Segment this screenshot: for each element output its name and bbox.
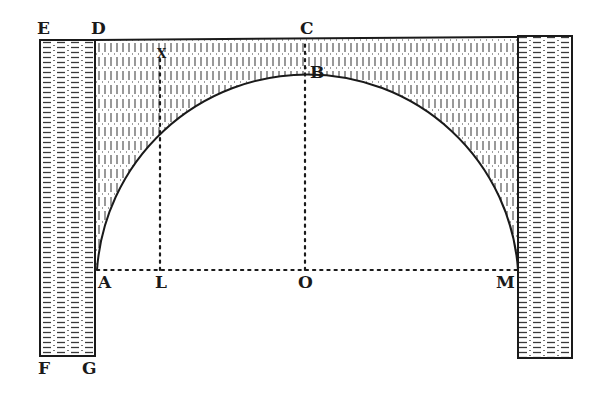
label-l: L [155, 274, 167, 291]
label-f: F [38, 360, 50, 377]
right-pier [518, 36, 572, 358]
label-g: G [82, 360, 97, 377]
label-o: O [298, 274, 313, 291]
label-m: M [496, 274, 515, 291]
label-c: C [300, 20, 314, 37]
label-x: X [157, 48, 166, 60]
label-e: E [37, 20, 50, 37]
left-pier [40, 40, 95, 356]
label-d: D [91, 20, 106, 37]
label-a: A [98, 274, 111, 291]
arch-diagram [0, 0, 602, 402]
label-b: B [310, 64, 324, 81]
